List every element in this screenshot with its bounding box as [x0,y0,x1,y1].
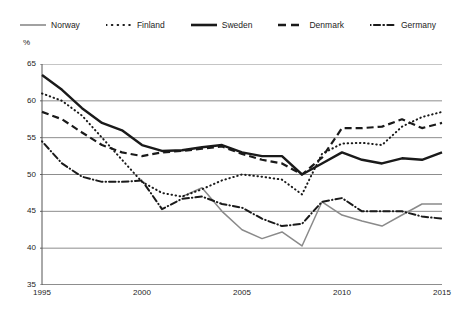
y-tick-label: 60 [20,97,36,105]
chart-plot-svg [40,64,446,285]
legend-label-finland: Finland [137,20,165,30]
x-tick-label: 2010 [333,289,351,297]
legend-label-germany: Germany [401,20,436,30]
plot-area [40,64,446,285]
legend-item-sweden: Sweden [191,20,253,30]
legend-label-norway: Norway [51,20,80,30]
legend-swatch-finland [106,20,132,30]
x-tick-label: 2015 [433,289,451,297]
y-tick-label: 45 [20,207,36,215]
x-tick-label: 2005 [233,289,251,297]
legend-swatch-sweden [191,20,217,30]
chart-figure: Norway Finland Sweden Denmark Germany [0,0,456,322]
y-axis-labels: 35404550556065 [16,0,36,322]
legend-label-denmark: Denmark [309,20,343,30]
y-tick-label: 50 [20,171,36,179]
series-line-denmark [42,112,442,175]
legend-swatch-germany [370,20,396,30]
x-axis-labels: 19952000200520102015 [0,289,456,305]
series-line-norway [182,188,442,246]
legend-label-sweden: Sweden [222,20,253,30]
legend-item-finland: Finland [106,20,165,30]
y-tick-label: 40 [20,244,36,252]
chart-legend: Norway Finland Sweden Denmark Germany [0,16,456,34]
x-tick-label: 1995 [33,289,51,297]
legend-swatch-denmark [278,20,304,30]
x-tick-label: 2000 [133,289,151,297]
legend-item-denmark: Denmark [278,20,343,30]
legend-item-germany: Germany [370,20,436,30]
series-line-sweden [42,75,442,174]
y-tick-label: 55 [20,134,36,142]
y-tick-label: 65 [20,60,36,68]
